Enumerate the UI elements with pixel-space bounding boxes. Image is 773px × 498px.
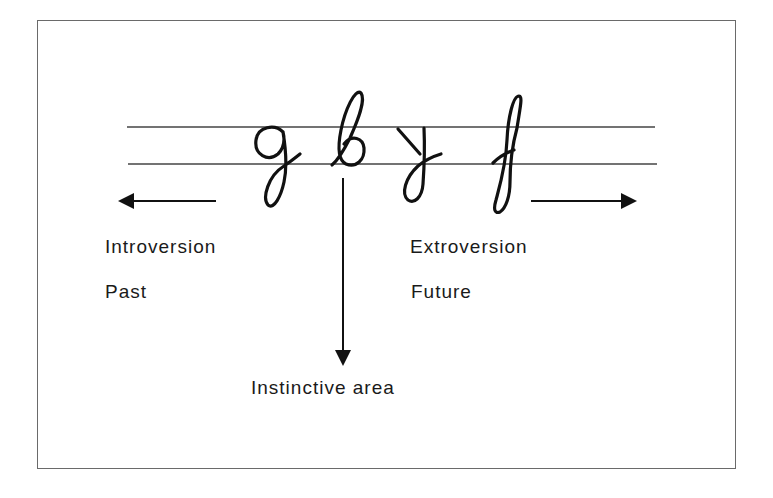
cursive-letter-f	[493, 96, 521, 213]
introversion-label: Introversion	[105, 236, 216, 258]
left-arrow-icon	[118, 193, 216, 209]
past-label: Past	[105, 281, 147, 303]
extroversion-label: Extroversion	[410, 236, 528, 258]
right-arrow-icon	[531, 193, 637, 209]
cursive-letter-g	[256, 127, 300, 206]
instinctive-area-label: Instinctive area	[251, 377, 395, 399]
future-label: Future	[411, 281, 472, 303]
cursive-letter-b	[332, 92, 364, 165]
down-arrow-icon	[335, 178, 351, 366]
